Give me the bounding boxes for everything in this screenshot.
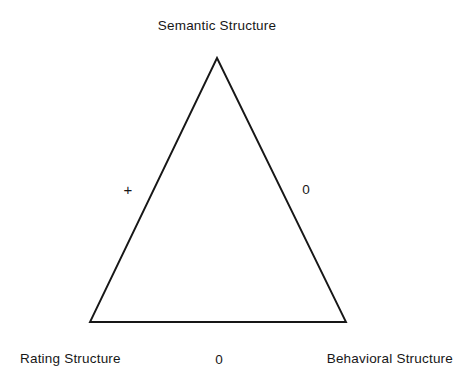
diagram-canvas: Semantic Structure Rating Structure Beha… — [0, 0, 465, 380]
vertex-label-semantic-structure: Semantic Structure — [158, 18, 276, 33]
triangle-shape — [0, 0, 465, 380]
vertex-label-behavioral-structure: Behavioral Structure — [327, 351, 453, 366]
edge-mark-semantic-behavioral: 0 — [302, 182, 310, 197]
edge-mark-rating-behavioral: 0 — [215, 352, 223, 367]
edge-mark-rating-semantic: + — [124, 181, 133, 198]
vertex-label-rating-structure: Rating Structure — [20, 351, 121, 366]
